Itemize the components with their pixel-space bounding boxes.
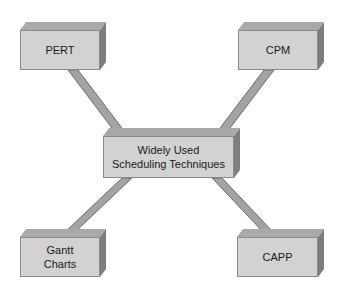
connector-gantt [64,178,132,233]
node-label: CPM [266,43,290,57]
node-label: CAPP [263,250,293,264]
node-gantt: Gantt Charts [20,229,106,279]
center-label: Widely Used Scheduling Techniques [112,143,225,171]
node-cpm: CPM [238,22,324,72]
connector-cpm [214,70,274,136]
node-pert: PERT [20,22,106,72]
node-center: Widely Used Scheduling Techniques [103,128,240,179]
node-label: Gantt Charts [44,243,76,271]
connector-capp [212,178,274,233]
scheduling-techniques-diagram: PERT CPM Widely Used Scheduling Techniqu… [0,0,340,293]
connector-pert [68,70,128,136]
node-capp: CAPP [237,229,324,279]
node-label: PERT [45,43,74,57]
